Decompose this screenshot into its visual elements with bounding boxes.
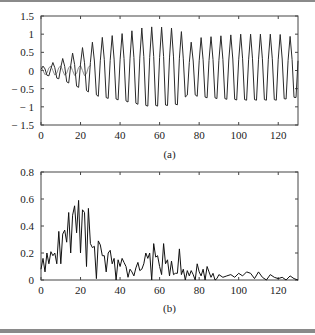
- y-tick-label: 0.8: [20, 166, 34, 178]
- x-tick-label: 40: [115, 284, 127, 296]
- x-tick-label: 60: [154, 129, 166, 141]
- panel-a-caption: (a): [163, 148, 176, 161]
- x-tick-label: 0: [38, 284, 44, 296]
- x-tick-label: 120: [270, 129, 287, 141]
- y-tick-label: 0.6: [20, 193, 34, 205]
- x-tick-label: 20: [75, 129, 87, 141]
- y-tick-label: 1: [29, 28, 35, 40]
- x-tick-label: 80: [194, 129, 206, 141]
- panel-b-caption: (b): [163, 302, 176, 315]
- x-tick-label: 100: [230, 129, 247, 141]
- x-tick-label: 60: [154, 284, 166, 296]
- y-tick-label: − 0.5: [11, 83, 34, 95]
- y-tick-label: 0.2: [20, 247, 34, 259]
- x-tick-label: 0: [38, 129, 44, 141]
- bottom-border: [0, 329, 315, 333]
- panel-a-plot: 020406080100120 − 1.5− 1− 0.500.511.5 (a…: [11, 10, 298, 161]
- x-tick-label: 40: [115, 129, 127, 141]
- y-tick-label: − 1.5: [11, 119, 34, 131]
- x-tick-label: 100: [230, 284, 247, 296]
- y-tick-label: 0.4: [20, 220, 34, 232]
- y-tick-label: 1.5: [20, 10, 34, 22]
- y-tick-label: 0: [29, 274, 35, 286]
- x-tick-label: 20: [75, 284, 87, 296]
- y-tick-label: − 1: [20, 101, 34, 113]
- panel-b-y-axis: 00.20.40.60.8: [20, 166, 298, 286]
- panel-b-spectrum-line: [41, 200, 298, 280]
- y-tick-label: 0.5: [20, 46, 34, 58]
- x-tick-label: 120: [270, 284, 287, 296]
- figure: 020406080100120 − 1.5− 1− 0.500.511.5 (a…: [0, 0, 315, 335]
- y-tick-label: 0: [29, 65, 35, 77]
- panel-b-plot: 020406080100120 00.20.40.60.8 (b): [20, 166, 298, 315]
- x-tick-label: 80: [194, 284, 206, 296]
- panel-b-x-axis: 020406080100120: [38, 172, 287, 296]
